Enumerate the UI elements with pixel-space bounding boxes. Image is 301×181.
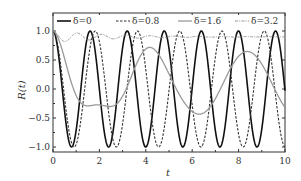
x-tick-label: 8 [236,156,242,166]
x-tick-label: 4 [143,156,149,166]
chart: 0246810−1.0−0.50.00.51.0 δ=0δ=0.8δ=1.6δ=… [0,0,301,181]
y-tick-label: −0.5 [28,113,50,123]
legend-entry: δ=1.6 [194,16,222,26]
series-line-0 [53,31,285,147]
legend: δ=0δ=0.8δ=1.6δ=3.2 [57,15,284,27]
legend-entry: δ=0.8 [132,16,160,26]
plot-curves [53,31,285,147]
x-tick-label: 6 [189,156,195,166]
x-tick-label: 0 [50,156,56,166]
y-tick-label: 0.0 [36,84,51,94]
x-tick-label: 10 [279,156,291,166]
x-axis-label: t [166,167,171,178]
legend-entry: δ=0 [73,16,92,26]
y-axis-label: R(t) [16,80,27,100]
y-tick-label: 1.0 [36,26,51,36]
x-tick-label: 2 [97,156,103,166]
axis-ticks: 0246810−1.0−0.50.00.51.0 [28,13,291,166]
y-tick-label: −1.0 [28,142,50,152]
y-tick-label: 0.5 [36,55,51,65]
legend-entry: δ=3.2 [251,16,278,26]
